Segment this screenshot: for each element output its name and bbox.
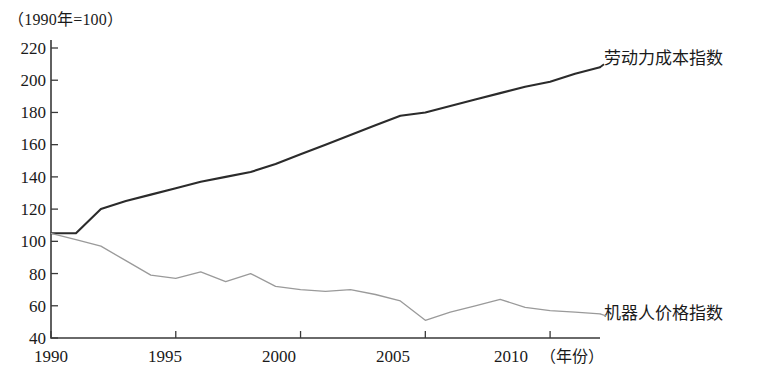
- line-labor-cost-index: [51, 67, 600, 233]
- chart-figure: （1990年=100） 220 200 180 160 140 120 100 …: [0, 0, 763, 392]
- leader-line-labor-cost: [600, 64, 604, 67]
- x-tick-marks: [51, 331, 550, 338]
- leader-line-robot-price: [600, 314, 606, 316]
- line-robot-price-index: [51, 233, 600, 320]
- y-tick-marks: [51, 48, 58, 338]
- chart-plot-area: [0, 0, 763, 392]
- chart-axes: [51, 40, 600, 338]
